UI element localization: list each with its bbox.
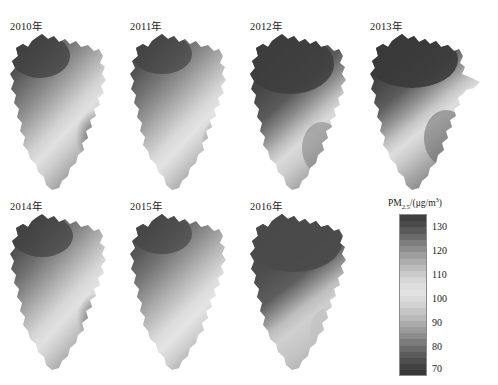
- pm25-multiyear-map-figure: 2010年: [0, 0, 498, 385]
- legend-tick: 90: [432, 318, 442, 328]
- legend-tick: 80: [432, 342, 442, 352]
- map-panel-2012[interactable]: 2012年: [242, 16, 362, 201]
- map-panel-2015[interactable]: 2015年: [122, 196, 242, 381]
- legend-tick: 130: [432, 222, 447, 232]
- map-surface-2016: [242, 210, 362, 380]
- map-surface-2011: [122, 30, 242, 200]
- map-surface-2012: [242, 30, 362, 200]
- legend-title-subscript: 2.5: [402, 203, 410, 210]
- legend-tick: 100: [432, 294, 447, 304]
- map-panel-2010[interactable]: 2010年: [2, 16, 122, 201]
- map-surface-2014: [2, 210, 122, 380]
- legend-tick: 110: [432, 270, 447, 280]
- map-panel-2014[interactable]: 2014年: [2, 196, 122, 381]
- legend-title-unit-close: ): [439, 198, 442, 208]
- map-panel-2013[interactable]: 2013年: [362, 16, 482, 201]
- legend-color-swatch: [400, 370, 426, 376]
- legend-tick-labels: 130 120 110 100 90 80 70: [432, 214, 492, 376]
- legend-tick: 70: [432, 364, 442, 374]
- legend-title-variable: PM: [388, 198, 402, 208]
- map-panel-2016[interactable]: 2016年: [242, 196, 362, 381]
- map-panel-2011[interactable]: 2011年: [122, 16, 242, 201]
- legend-title: PM2.5/(μg/m3): [388, 196, 442, 210]
- map-surface-2010: [2, 30, 122, 200]
- pm25-colorbar-legend: PM2.5/(μg/m3): [386, 196, 494, 382]
- legend-title-unit-open: /(μg/m: [410, 198, 436, 208]
- legend-color-bar: [399, 214, 427, 376]
- legend-tick: 120: [432, 246, 447, 256]
- map-surface-2013: [362, 30, 482, 200]
- map-surface-2015: [122, 210, 242, 380]
